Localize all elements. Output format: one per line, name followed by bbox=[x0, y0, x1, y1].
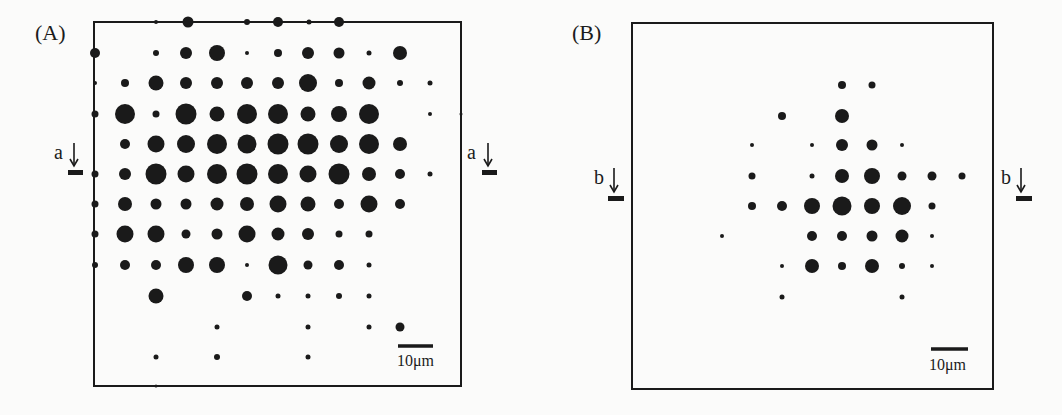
dot bbox=[115, 104, 135, 124]
dot bbox=[865, 259, 879, 273]
dot bbox=[212, 229, 223, 240]
dot bbox=[336, 293, 342, 299]
dot bbox=[268, 164, 288, 184]
dot bbox=[153, 111, 160, 118]
dot bbox=[301, 197, 316, 212]
figure: (A) a a 10μm (B) bbox=[0, 0, 1062, 415]
dot bbox=[930, 234, 934, 238]
dot bbox=[148, 226, 165, 243]
dot bbox=[237, 164, 258, 185]
dot bbox=[93, 81, 97, 85]
dot bbox=[177, 135, 195, 153]
dot bbox=[304, 261, 313, 270]
panel-a-label: (A) bbox=[35, 20, 66, 45]
dot bbox=[307, 20, 312, 25]
dot bbox=[92, 262, 98, 268]
dot bbox=[276, 294, 281, 299]
dot bbox=[92, 201, 99, 208]
dot bbox=[306, 355, 311, 360]
dot bbox=[460, 113, 463, 116]
dot bbox=[898, 172, 907, 181]
dot bbox=[804, 198, 820, 214]
dot bbox=[777, 201, 787, 211]
dot bbox=[780, 264, 784, 268]
dot bbox=[180, 77, 192, 89]
dot bbox=[367, 294, 372, 299]
dot bbox=[183, 17, 194, 28]
dot bbox=[899, 263, 905, 269]
dot bbox=[272, 228, 285, 241]
section-label-a-left: a bbox=[54, 141, 63, 163]
dot bbox=[750, 143, 754, 147]
dot bbox=[176, 104, 197, 125]
dot bbox=[810, 143, 814, 147]
dot bbox=[306, 294, 311, 299]
dot bbox=[301, 107, 316, 122]
dot bbox=[90, 48, 100, 58]
dot bbox=[893, 197, 911, 215]
dot bbox=[154, 355, 159, 360]
dot bbox=[395, 199, 405, 209]
dot bbox=[178, 166, 195, 183]
scale-bar-label: 10μm bbox=[397, 352, 435, 370]
section-label-a-right: a bbox=[467, 141, 476, 163]
dot bbox=[299, 74, 317, 92]
dot bbox=[274, 49, 282, 57]
dot bbox=[838, 262, 846, 270]
section-label-b-right: b bbox=[1001, 166, 1011, 188]
dot bbox=[397, 80, 403, 86]
dot bbox=[335, 79, 343, 87]
dot bbox=[210, 107, 225, 122]
dot bbox=[180, 47, 192, 59]
dot bbox=[245, 263, 249, 267]
section-marker-b-right: b bbox=[1001, 166, 1032, 201]
dot bbox=[361, 196, 378, 213]
dot bbox=[896, 230, 909, 243]
dot bbox=[869, 82, 876, 89]
dot bbox=[833, 197, 852, 216]
dot bbox=[900, 295, 905, 300]
section-label-b-left: b bbox=[594, 166, 604, 188]
dot bbox=[120, 260, 130, 270]
dot bbox=[748, 202, 756, 210]
dot bbox=[154, 20, 158, 24]
scale-bar-a: 10μm bbox=[397, 346, 435, 370]
dot bbox=[92, 231, 99, 238]
dot bbox=[363, 77, 376, 90]
dot bbox=[835, 169, 849, 183]
dot bbox=[836, 139, 848, 151]
dot bbox=[149, 76, 164, 91]
dot bbox=[151, 199, 162, 210]
dot bbox=[395, 169, 405, 179]
dot bbox=[393, 137, 407, 151]
dot bbox=[92, 111, 99, 118]
section-marker-a-left: a bbox=[54, 141, 83, 175]
dot bbox=[244, 19, 250, 25]
dot bbox=[151, 260, 161, 270]
dot bbox=[367, 263, 372, 268]
dot bbox=[396, 323, 405, 332]
section-marker-b-left: b bbox=[594, 166, 624, 201]
dot bbox=[428, 81, 433, 86]
dot bbox=[362, 167, 376, 181]
dot bbox=[428, 172, 433, 177]
dot bbox=[240, 197, 254, 211]
dot bbox=[900, 143, 904, 147]
dot bbox=[241, 77, 253, 89]
dot bbox=[749, 173, 756, 180]
scale-bar-label: 10μm bbox=[929, 356, 967, 374]
dot bbox=[207, 164, 227, 184]
dot bbox=[269, 256, 288, 275]
dot bbox=[334, 17, 344, 27]
dot bbox=[149, 289, 164, 304]
dot bbox=[928, 172, 937, 181]
dot bbox=[336, 231, 343, 238]
dot bbox=[334, 260, 344, 270]
dot bbox=[211, 77, 223, 89]
dot bbox=[720, 234, 724, 238]
dot bbox=[334, 48, 345, 59]
dot bbox=[359, 134, 379, 154]
panel-b-dots bbox=[720, 81, 966, 300]
dot bbox=[959, 173, 966, 180]
dot bbox=[215, 325, 220, 330]
